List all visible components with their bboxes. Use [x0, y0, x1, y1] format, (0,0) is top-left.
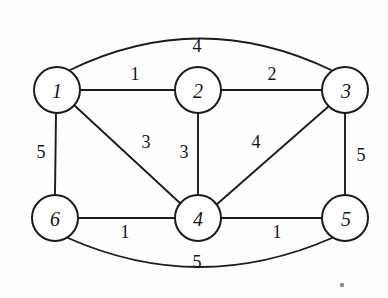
node-6[interactable]: 6 [32, 195, 78, 241]
node-2-label: 2 [193, 80, 203, 102]
graph-figure: 1 2 3 4 5 6 [0, 0, 388, 298]
edge-weight-2-4: 3 [180, 142, 189, 162]
node-3-label: 3 [340, 80, 351, 102]
edge-weight-1-3: 4 [193, 36, 202, 56]
edge-weight-2-3: 2 [268, 64, 277, 84]
node-4-label: 4 [193, 208, 203, 230]
edge-1-4 [74, 105, 181, 204]
node-5-label: 5 [341, 208, 351, 230]
node-4[interactable]: 4 [175, 195, 221, 241]
graph-canvas: 1 2 3 4 5 6 [0, 0, 388, 298]
edge-weight-6-5: 5 [193, 252, 202, 272]
node-5[interactable]: 5 [322, 195, 368, 241]
scan-speck [340, 283, 344, 287]
edge-weight-3-5: 5 [357, 145, 366, 165]
node-2[interactable]: 2 [175, 67, 221, 113]
edge-weight-1-2: 1 [131, 64, 140, 84]
edge-1-6 [55, 113, 56, 195]
node-layer: 1 2 3 4 5 6 [32, 67, 368, 241]
node-6-label: 6 [50, 208, 60, 230]
edge-weight-1-4: 3 [142, 132, 151, 152]
node-1[interactable]: 1 [34, 67, 80, 113]
node-1-label: 1 [52, 80, 62, 102]
node-3[interactable]: 3 [322, 67, 368, 113]
edge-weight-1-6: 5 [37, 142, 46, 162]
edge-weight-3-4: 4 [252, 132, 261, 152]
edge-3-4 [216, 106, 329, 205]
edge-weight-4-5: 1 [273, 222, 282, 242]
edge-weight-6-4: 1 [121, 222, 130, 242]
